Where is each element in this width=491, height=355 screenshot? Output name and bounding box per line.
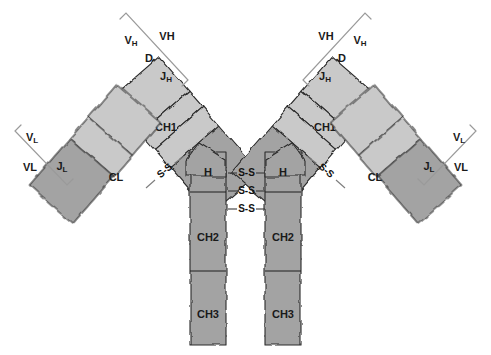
hinge-disulfide-3: S-S (238, 203, 255, 214)
hinge-disulfide-1: S-S (238, 167, 255, 178)
light-right-cl-label: CL (368, 171, 383, 183)
hinge-disulfide-2: S-S (238, 185, 255, 196)
heavy-right-d-segment-label: D (338, 52, 346, 64)
heavy-right-vh-region-label: VH (318, 30, 333, 42)
heavy-left-vh-region-label: VH (159, 30, 174, 42)
heavy-left-d-segment-label: D (145, 52, 153, 64)
heavy-left-hinge-label: H (204, 166, 212, 178)
heavy-right-ch3-label: CH3 (272, 308, 294, 320)
light-right-vl-region-label: VL (454, 161, 468, 173)
light-left-vl-region-label: VL (23, 161, 37, 173)
heavy-right-ch2-label: CH2 (272, 231, 294, 243)
heavy-left-ch3-label: CH3 (197, 308, 219, 320)
heavy-right-hinge-label: H (279, 166, 287, 178)
light-left-cl-label: CL (109, 171, 124, 183)
antibody-structure-diagram: CH1 H CH2 CH3 CH1 H CH2 C (0, 0, 491, 355)
heavy-left-ch2-label: CH2 (197, 231, 219, 243)
